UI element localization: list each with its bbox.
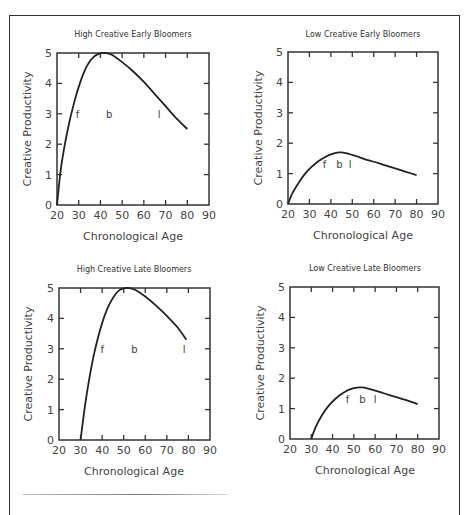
- panel-high-late: High Creative Late Bloomers Chronologica…: [22, 265, 217, 478]
- x-tick-label: 20: [52, 444, 66, 457]
- y-tick-label: 2: [276, 137, 283, 150]
- point-annotation: b: [336, 159, 342, 170]
- x-tick-label: 60: [137, 209, 151, 222]
- x-tick-label: 50: [115, 209, 129, 222]
- y-tick-label: 0: [47, 434, 54, 447]
- point-annotation: f: [100, 344, 104, 355]
- x-tick-label: 80: [410, 208, 424, 221]
- productivity-curve: [81, 288, 187, 440]
- point-annotation: f: [346, 394, 350, 405]
- productivity-curve: [288, 152, 417, 204]
- x-tick-label: 60: [368, 443, 382, 456]
- x-tick-label: 90: [431, 208, 445, 221]
- panel-low-late: Low Creative Late Bloomers Chronological…: [254, 264, 446, 477]
- y-tick-label: 3: [276, 107, 283, 120]
- x-tick-label: 50: [345, 208, 359, 221]
- x-tick-label: 20: [281, 208, 295, 221]
- x-tick-label: 70: [159, 209, 173, 222]
- y-tick-label: 3: [47, 343, 54, 356]
- y-tick-label: 3: [45, 108, 52, 121]
- x-tick-label: 60: [138, 444, 152, 457]
- plot-frame: [290, 287, 439, 439]
- x-tick-label: 30: [72, 209, 86, 222]
- y-tick-label: 1: [276, 168, 283, 181]
- y-axis-label: Creative Productivity: [21, 71, 34, 186]
- panel-low-early: Low Creative Early Bloomers Chronologica…: [252, 30, 445, 242]
- y-tick-label: 5: [278, 281, 285, 294]
- point-annotation: l: [374, 394, 377, 405]
- x-tick-label: 70: [160, 444, 174, 457]
- y-axis-label: Creative Productivity: [22, 306, 35, 421]
- y-tick-label: 5: [276, 46, 283, 59]
- panel-title: High Creative Early Bloomers: [74, 30, 191, 39]
- x-tick-label: 60: [367, 208, 381, 221]
- x-tick-label: 30: [304, 443, 318, 456]
- x-tick-label: 80: [181, 444, 195, 457]
- x-tick-label: 70: [388, 208, 402, 221]
- panel-high-early: High Creative Early Bloomers Chronologic…: [21, 30, 216, 243]
- point-annotation: f: [76, 109, 80, 120]
- x-tick-label: 90: [202, 209, 216, 222]
- y-tick-label: 2: [278, 372, 285, 385]
- panel-title: High Creative Late Bloomers: [77, 265, 192, 274]
- x-tick-label: 30: [302, 208, 316, 221]
- productivity-curve: [57, 53, 187, 205]
- x-tick-label: 70: [389, 443, 403, 456]
- x-tick-label: 90: [432, 443, 446, 456]
- x-tick-label: 30: [74, 444, 88, 457]
- y-tick-label: 5: [45, 47, 52, 60]
- point-annotation: l: [349, 159, 352, 170]
- x-tick-label: 90: [203, 444, 217, 457]
- y-tick-label: 2: [45, 138, 52, 151]
- y-tick-label: 2: [47, 373, 54, 386]
- x-tick-label: 50: [347, 443, 361, 456]
- x-axis-label: Chronological Age: [315, 464, 415, 477]
- panel-title: Low Creative Early Bloomers: [306, 30, 421, 39]
- point-annotation: l: [158, 109, 161, 120]
- point-annotation: l: [183, 344, 186, 355]
- y-tick-label: 4: [47, 312, 54, 325]
- y-tick-label: 4: [45, 77, 52, 90]
- x-tick-label: 40: [95, 444, 109, 457]
- x-tick-label: 80: [180, 209, 194, 222]
- y-axis-label: Creative Productivity: [254, 305, 267, 420]
- plot-frame: [59, 288, 210, 440]
- x-axis-label: Chronological Age: [313, 229, 413, 242]
- plot-frame: [288, 52, 438, 204]
- point-annotation: b: [131, 344, 137, 355]
- x-axis-label: Chronological Age: [83, 230, 183, 243]
- y-tick-label: 0: [45, 199, 52, 212]
- x-axis-label: Chronological Age: [84, 465, 184, 478]
- point-annotation: f: [323, 159, 327, 170]
- x-tick-label: 40: [324, 208, 338, 221]
- x-tick-label: 50: [117, 444, 131, 457]
- y-axis-label: Creative Productivity: [252, 70, 265, 185]
- y-tick-label: 1: [278, 403, 285, 416]
- y-tick-label: 0: [278, 433, 285, 446]
- y-tick-label: 1: [47, 404, 54, 417]
- y-tick-label: 1: [45, 169, 52, 182]
- y-tick-label: 0: [276, 198, 283, 211]
- x-tick-label: 80: [411, 443, 425, 456]
- x-tick-label: 20: [283, 443, 297, 456]
- y-tick-label: 4: [276, 76, 283, 89]
- point-annotation: b: [106, 109, 112, 120]
- y-tick-label: 5: [47, 282, 54, 295]
- point-annotation: b: [359, 394, 365, 405]
- y-tick-label: 3: [278, 342, 285, 355]
- panel-title: Low Creative Late Bloomers: [309, 264, 421, 273]
- x-tick-label: 40: [93, 209, 107, 222]
- x-tick-label: 40: [326, 443, 340, 456]
- x-tick-label: 20: [50, 209, 64, 222]
- y-tick-label: 4: [278, 311, 285, 324]
